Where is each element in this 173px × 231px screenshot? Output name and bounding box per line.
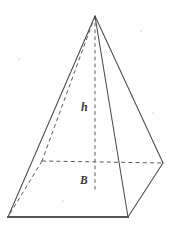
paper-speck — [18, 58, 20, 60]
back-left-to-front-bottom-left-hidden-edge — [8, 161, 42, 217]
base-label: B — [80, 175, 88, 187]
height-label: h — [81, 101, 88, 113]
paper-speck — [112, 150, 114, 152]
paper-speck — [62, 200, 64, 202]
paper-speck — [140, 30, 142, 32]
apex-to-front-bottom-right-edge — [95, 16, 128, 217]
apex-to-front-bottom-left-edge — [8, 16, 95, 217]
pyramid-figure: h B — [0, 0, 173, 231]
apex-to-back-left-hidden-edge — [42, 16, 95, 161]
paper-speck — [152, 112, 154, 114]
base-back-diagonal-hidden-edge — [42, 161, 163, 163]
base-front-right-edge — [128, 163, 163, 217]
apex-to-right-edge — [95, 16, 163, 163]
pyramid-drawing — [0, 0, 173, 231]
